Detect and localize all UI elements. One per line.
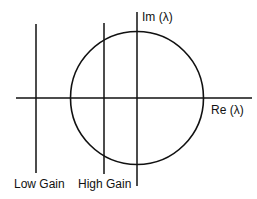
high-gain-label: High Gain	[78, 178, 131, 190]
imag-axis-label: Im (λ)	[142, 11, 173, 23]
root-locus-diagram	[0, 0, 257, 199]
real-axis-label: Re (λ)	[211, 104, 244, 116]
low-gain-label: Low Gain	[14, 178, 65, 190]
